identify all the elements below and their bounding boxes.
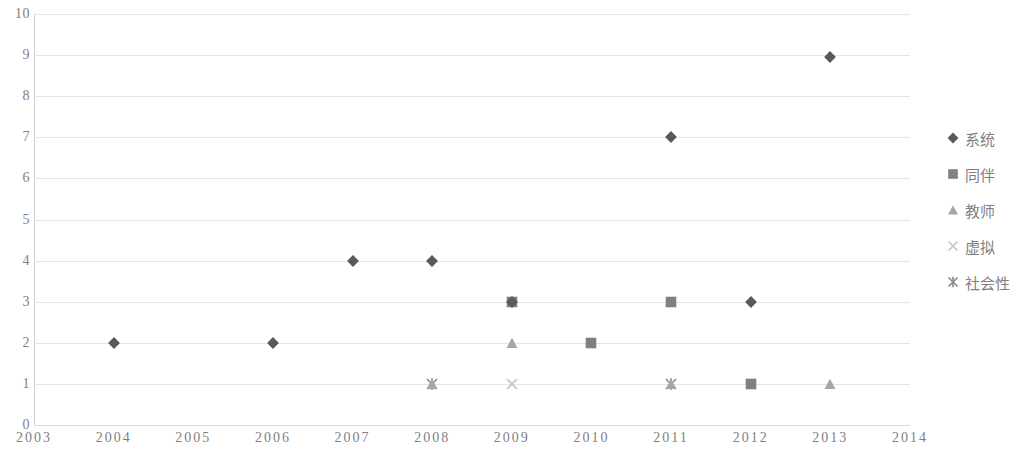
grid-line <box>34 302 910 303</box>
data-point <box>744 295 757 308</box>
x-axis-tick-label: 2012 <box>733 430 769 446</box>
grid-line <box>34 137 910 138</box>
legend-item-label: 系统 <box>965 128 995 149</box>
data-point <box>665 131 678 144</box>
y-axis-tick-label: 1 <box>2 376 30 392</box>
legend-item-label: 教师 <box>965 200 995 221</box>
legend-item[interactable]: 系统 <box>944 120 1023 156</box>
legend-item-label: 虚拟 <box>965 236 995 257</box>
y-axis-tick-label: 9 <box>2 47 30 63</box>
x-axis-tick-label: 2013 <box>812 430 848 446</box>
data-point <box>505 377 518 390</box>
data-point <box>426 254 439 267</box>
grid-line <box>34 55 910 56</box>
data-point <box>744 377 757 390</box>
chart-container: 012345678910 200320042005200620072008200… <box>0 0 1023 457</box>
data-point <box>346 254 359 267</box>
x-axis: 2003200420052006200720082009201020112012… <box>0 430 1023 454</box>
y-axis-tick-label: 8 <box>2 88 30 104</box>
x-axis-tick-label: 2011 <box>653 430 688 446</box>
y-axis-tick-label: 10 <box>2 6 30 22</box>
diamond-icon <box>944 129 962 147</box>
x-axis-tick-label: 2003 <box>16 430 52 446</box>
grid-line <box>34 384 910 385</box>
cross-icon <box>944 237 962 255</box>
data-point <box>665 295 678 308</box>
data-point <box>824 51 837 64</box>
legend-item[interactable]: 同伴 <box>944 156 1023 192</box>
y-axis-tick-label: 5 <box>2 212 30 228</box>
x-axis-tick-label: 2006 <box>255 430 291 446</box>
data-point <box>107 336 120 349</box>
y-axis-tick-label: 4 <box>2 253 30 269</box>
asterisk-icon <box>944 273 962 291</box>
grid-line <box>34 343 910 344</box>
plot-area <box>34 14 910 425</box>
triangle-icon <box>944 201 962 219</box>
x-axis-tick-label: 2014 <box>892 430 928 446</box>
data-point <box>585 336 598 349</box>
x-axis-tick-label: 2008 <box>414 430 450 446</box>
data-point <box>266 336 279 349</box>
legend-item-label: 社会性 <box>965 272 1010 293</box>
grid-line <box>34 261 910 262</box>
data-point <box>426 377 439 390</box>
data-point <box>824 377 837 390</box>
grid-line <box>34 220 910 221</box>
y-axis-tick-label: 3 <box>2 294 30 310</box>
chart-legend: 系统同伴教师虚拟社会性 <box>944 120 1023 300</box>
legend-item[interactable]: 虚拟 <box>944 228 1023 264</box>
data-point <box>505 336 518 349</box>
x-axis-tick-label: 2007 <box>335 430 371 446</box>
y-axis-tick-label: 6 <box>2 170 30 186</box>
y-axis-tick-label: 2 <box>2 335 30 351</box>
y-axis-tick-label: 7 <box>2 129 30 145</box>
legend-item-label: 同伴 <box>965 164 995 185</box>
square-icon <box>944 165 962 183</box>
x-axis-tick-label: 2009 <box>494 430 530 446</box>
grid-line <box>34 96 910 97</box>
y-axis: 012345678910 <box>0 0 30 457</box>
x-axis-tick-label: 2010 <box>573 430 609 446</box>
x-axis-tick-label: 2004 <box>96 430 132 446</box>
legend-item[interactable]: 社会性 <box>944 264 1023 300</box>
grid-line <box>34 14 910 15</box>
data-point <box>505 295 518 308</box>
x-axis-line <box>34 425 910 426</box>
x-axis-tick-label: 2005 <box>175 430 211 446</box>
legend-item[interactable]: 教师 <box>944 192 1023 228</box>
grid-line <box>34 178 910 179</box>
data-point <box>665 377 678 390</box>
